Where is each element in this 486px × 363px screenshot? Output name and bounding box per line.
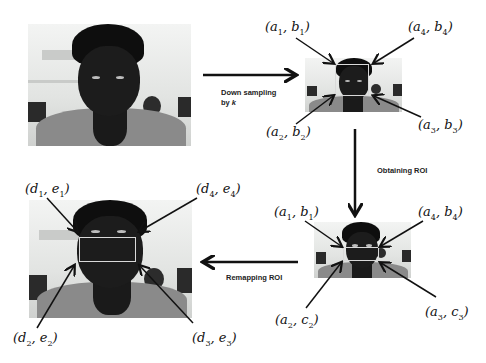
coord-label-d3-e3: (d3, e3) bbox=[192, 330, 237, 348]
remap-roi-step-label: Remapping ROI bbox=[226, 273, 282, 283]
downsample-factor-k: k bbox=[232, 98, 236, 107]
coord-label-a2-b2: (a2, b2) bbox=[266, 124, 311, 142]
coord-label-d2-e2: (d2, e2) bbox=[13, 330, 58, 348]
obtain-roi-step-label: Obtaining ROI bbox=[377, 166, 427, 176]
coord-label-a1-b1-roi: (a1, b1) bbox=[274, 204, 319, 222]
coord-label-d1-e1: (d1, e1) bbox=[25, 181, 70, 199]
coord-label-a2-c2-roi: (a2, c2) bbox=[275, 312, 319, 330]
downsample-step-label: Down sampling by k bbox=[221, 88, 276, 108]
downsample-by-text: by bbox=[221, 98, 232, 107]
arrows-layer bbox=[0, 0, 486, 363]
coord-label-d4-e4: (d4, e4) bbox=[196, 181, 241, 199]
coord-label-a3-c3-roi: (a3, c3) bbox=[425, 304, 469, 322]
coord-label-a3-b3: (a3, b3) bbox=[418, 117, 463, 135]
downsample-text: Down sampling bbox=[221, 88, 276, 97]
coord-label-a4-b4: (a4, b4) bbox=[408, 19, 453, 37]
coord-label-a1-b1: (a1, b1) bbox=[265, 19, 310, 37]
coord-label-a4-b4-roi: (a4, b4) bbox=[418, 204, 463, 222]
